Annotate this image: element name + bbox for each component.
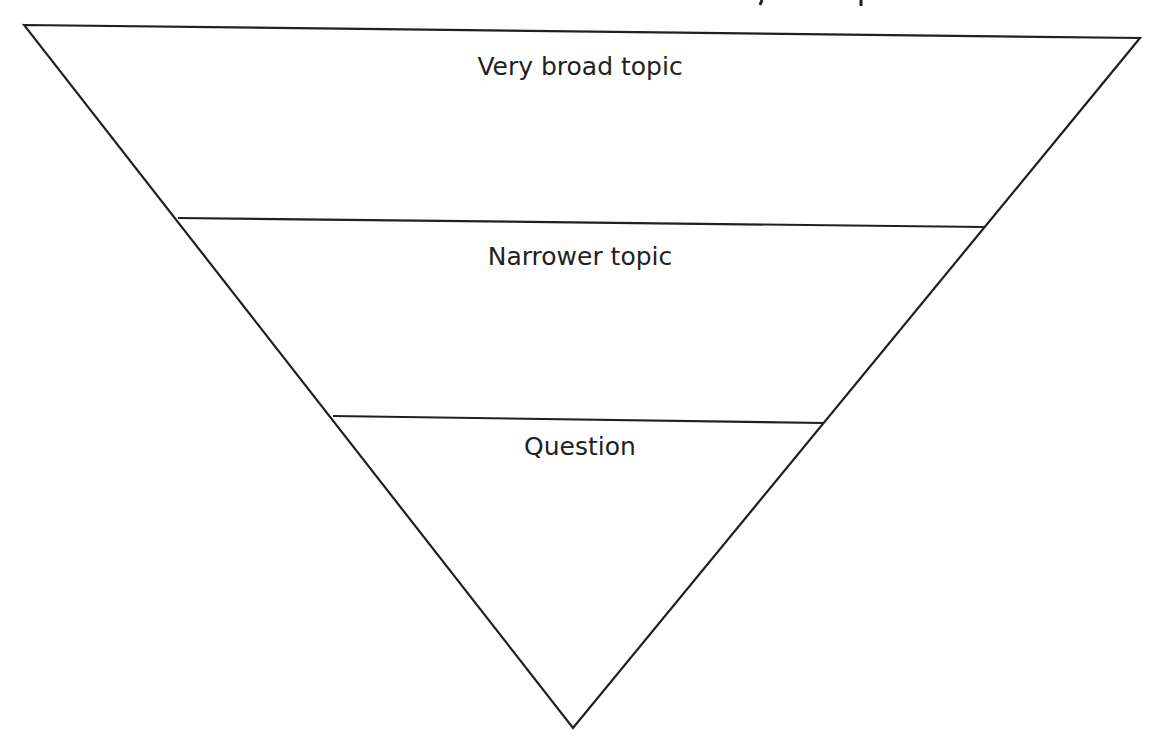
inverted-triangle-shape [0, 0, 1160, 755]
level-label-very-broad-topic: Very broad topic [0, 52, 1160, 81]
divider-line-1 [178, 218, 984, 227]
funnel-outline [24, 25, 1140, 728]
divider-line-2 [333, 416, 824, 423]
level-label-narrower-topic: Narrower topic [0, 242, 1160, 271]
level-label-question: Question [0, 432, 1160, 461]
title-descender-fragment [760, 0, 762, 5]
